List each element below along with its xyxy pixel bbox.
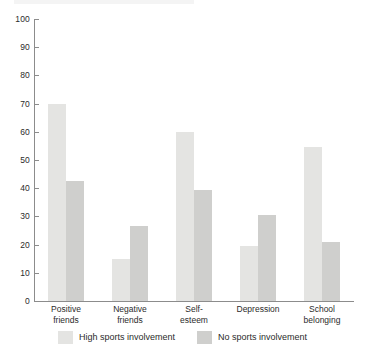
y-tick-label-100: 100 (0, 15, 30, 24)
bar-no-sports-3 (258, 215, 276, 301)
category-label-line: esteem (154, 315, 234, 326)
plot-area (34, 19, 354, 301)
bar-no-sports-4 (322, 242, 340, 301)
category-label-4: Schoolbelonging (282, 304, 362, 325)
y-tick-label-40: 40 (0, 184, 30, 193)
legend-item-1: No sports involvement (197, 331, 307, 344)
y-tick-label-30: 30 (0, 212, 30, 221)
y-tick-label-50: 50 (0, 156, 30, 165)
y-tick-label-70: 70 (0, 100, 30, 109)
bar-high-sports-4 (304, 147, 322, 301)
legend-label-0: High sports involvement (79, 332, 175, 343)
legend-swatch-1 (197, 331, 212, 344)
y-tick-label-90: 90 (0, 43, 30, 52)
y-tick-label-80: 80 (0, 71, 30, 80)
bar-high-sports-0 (48, 104, 66, 301)
bar-chart: 0102030405060708090100 PositivefriendsNe… (0, 0, 365, 351)
category-label-line: belonging (282, 315, 362, 326)
bar-high-sports-2 (176, 132, 194, 301)
chart-legend: High sports involvementNo sports involve… (0, 331, 365, 344)
y-tick-label-20: 20 (0, 241, 30, 250)
legend-swatch-0 (58, 331, 73, 344)
legend-label-1: No sports involvement (218, 332, 307, 343)
scan-artifact (14, 0, 194, 4)
bar-high-sports-3 (240, 246, 258, 301)
category-label-line: School (282, 304, 362, 315)
bar-no-sports-0 (66, 181, 84, 301)
bar-high-sports-1 (112, 259, 130, 301)
y-tick-mark-0 (35, 301, 39, 302)
x-axis-line (34, 301, 354, 302)
bar-no-sports-1 (130, 226, 148, 301)
y-tick-label-60: 60 (0, 128, 30, 137)
y-tick-label-10: 10 (0, 269, 30, 278)
bar-no-sports-2 (194, 190, 212, 301)
legend-item-0: High sports involvement (58, 331, 175, 344)
